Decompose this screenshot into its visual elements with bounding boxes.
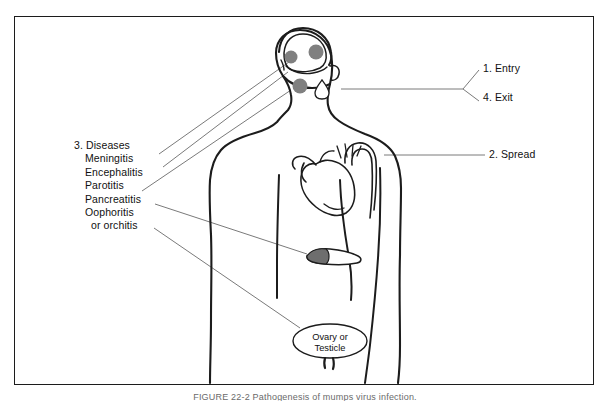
label-exit: 4. Exit [483, 91, 513, 104]
disease-heading: 3. Diseases [74, 139, 143, 152]
figure-canvas: 3. Diseases Meningitis Encephalitis Paro… [0, 0, 610, 401]
label-entry: 1. Entry [483, 62, 520, 75]
gonad-label: Ovary or Testicle [296, 332, 364, 354]
label-spread: 2. Spread [489, 148, 535, 161]
disease-item-encephalitis: Encephalitis [74, 166, 143, 179]
gonad-label-line1: Ovary or [296, 332, 364, 343]
gonad-label-line2: Testicle [296, 343, 364, 354]
disease-item-meningitis: Meningitis [74, 152, 143, 165]
figure-caption: FIGURE 22-2 Pathogenesis of mumps virus … [0, 392, 610, 401]
disease-item-pancreatitis: Pancreatitis [74, 193, 143, 206]
disease-item-parotitis: Parotitis [74, 179, 143, 192]
disease-item-orchitis: or orchitis [74, 219, 143, 232]
disease-label-group: 3. Diseases Meningitis Encephalitis Paro… [74, 139, 143, 233]
disease-item-oophoritis: Oophoritis [74, 206, 143, 219]
